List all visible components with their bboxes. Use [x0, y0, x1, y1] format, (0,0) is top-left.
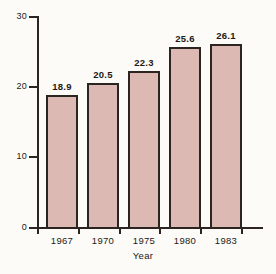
y-tick-label-0: 0: [1, 223, 27, 232]
x-tick-mark-2: [119, 229, 121, 234]
bar-value-label-1: 20.5: [78, 70, 128, 80]
y-axis-line: [37, 16, 39, 229]
y-tick-label-30: 30: [1, 12, 27, 21]
y-tick-label-0-wrap: 0: [0, 223, 27, 232]
bar-3: [169, 47, 201, 229]
bar-value-label-2: 22.3: [119, 58, 169, 68]
y-tick-mark-10: [29, 156, 38, 158]
x-axis-title-text: Year: [133, 250, 153, 261]
x-category-label-4: 1983: [201, 236, 251, 246]
bar-value-label-4: 26.1: [201, 31, 251, 41]
y-tick-mark-30: [29, 16, 38, 18]
bar-4: [210, 44, 242, 229]
bar-value-label-0: 18.9: [37, 82, 87, 92]
x-tick-mark-5: [241, 229, 243, 234]
bar-1: [87, 83, 119, 229]
x-tick-mark-0: [37, 229, 39, 234]
y-tick-label-20-wrap: 20: [0, 82, 27, 91]
x-axis-title: Year: [42, 251, 246, 261]
y-tick-label-10: 10: [1, 152, 27, 161]
x-tick-mark-4: [200, 229, 202, 234]
x-tick-mark-1: [78, 229, 80, 234]
bar-chart: 0 10 20 30 18.9 20.5 22.3 25.6 26.1: [0, 0, 276, 274]
bar-0: [46, 95, 78, 229]
y-tick-label-10-wrap: 10: [0, 152, 27, 161]
plot-area: 0 10 20 30 18.9 20.5 22.3 25.6 26.1: [0, 0, 276, 274]
y-tick-label-30-wrap: 30: [0, 12, 27, 21]
x-tick-mark-3: [159, 229, 161, 234]
y-tick-label-20: 20: [1, 82, 27, 91]
bar-2: [128, 71, 160, 229]
